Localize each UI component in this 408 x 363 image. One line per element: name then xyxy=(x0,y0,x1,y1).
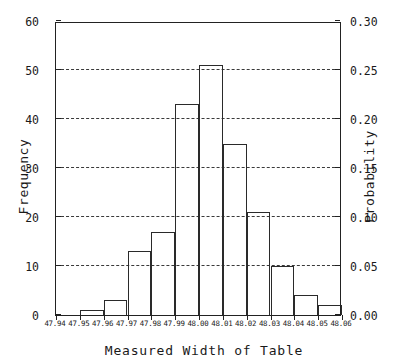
x-tick-label: 47.94 xyxy=(44,319,65,328)
x-tick-label: 48.02 xyxy=(235,319,256,328)
x-axis-tick-labels: 47.9447.9547.9647.9747.9847.9948.0048.01… xyxy=(55,319,341,333)
y-tick-label-left: 10 xyxy=(25,260,39,274)
x-tick-label: 48.06 xyxy=(330,319,351,328)
y-tick-label-left: 0 xyxy=(32,309,39,323)
x-tick-label: 48.03 xyxy=(259,319,280,328)
y-tick-right xyxy=(335,20,340,21)
y-tick-label-right: 0.05 xyxy=(350,260,378,274)
y-axis-right-title: Probability xyxy=(362,117,377,237)
histogram-bar xyxy=(294,295,318,315)
y-tick-right xyxy=(335,118,340,119)
histogram-bar xyxy=(80,310,104,315)
y-tick-left xyxy=(56,20,61,21)
y-tick-left xyxy=(56,118,61,119)
x-tick-label: 47.98 xyxy=(140,319,161,328)
x-tick-label: 48.00 xyxy=(187,319,208,328)
y-tick-right xyxy=(335,216,340,217)
y-tick-label-left: 50 xyxy=(25,64,39,78)
y-tick-label-right: 0.25 xyxy=(350,64,378,78)
x-tick-label: 48.04 xyxy=(283,319,304,328)
y-axis-right-tick-labels: 0.000.050.100.150.200.250.30 xyxy=(350,22,408,316)
histogram-bar xyxy=(104,300,128,315)
y-tick-left xyxy=(56,265,61,266)
histogram-bar xyxy=(271,266,295,315)
x-tick-label: 48.01 xyxy=(211,319,232,328)
y-tick-left xyxy=(56,167,61,168)
y-tick-label-left: 60 xyxy=(25,15,39,29)
x-tick-label: 47.97 xyxy=(116,319,137,328)
histogram-bar xyxy=(175,104,199,315)
x-tick-label: 47.95 xyxy=(68,319,89,328)
histogram-figure: 0102030405060 0.000.050.100.150.200.250.… xyxy=(0,0,408,363)
y-tick-left xyxy=(56,216,61,217)
x-tick-label: 47.96 xyxy=(92,319,113,328)
y-tick-right xyxy=(335,314,340,315)
histogram-bar xyxy=(151,232,175,315)
x-axis-title: Measured Width of Table xyxy=(0,343,408,358)
histogram-bar xyxy=(199,65,223,315)
y-tick-right xyxy=(335,265,340,266)
y-axis-left-title: Frequency xyxy=(16,117,31,237)
x-tick-label: 48.05 xyxy=(307,319,328,328)
y-tick-label-right: 0.30 xyxy=(350,15,378,29)
y-tick-right xyxy=(335,167,340,168)
plot-area xyxy=(55,22,341,316)
y-tick-label-right: 0.00 xyxy=(350,309,378,323)
histogram-bar xyxy=(128,251,152,315)
histogram-bar xyxy=(223,144,247,316)
histogram-bars xyxy=(56,23,340,315)
y-tick-left xyxy=(56,69,61,70)
y-tick-right xyxy=(335,69,340,70)
x-tick-label: 47.99 xyxy=(164,319,185,328)
histogram-bar xyxy=(247,212,271,315)
